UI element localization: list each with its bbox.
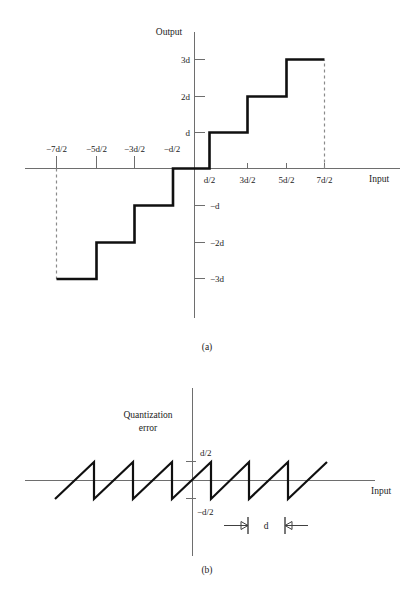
quantization-figure: Output Input 3d 2d d −d −2d −3d d/2 3d/2… [0, 0, 411, 591]
panel-a-x-label-neg-5half-d: −5d/2 [86, 144, 107, 154]
panel-a-caption: (a) [202, 342, 213, 353]
panel-a-x-label-neg-3half-d: −3d/2 [124, 144, 145, 154]
panel-a-group: Output Input 3d 2d d −d −2d −3d d/2 3d/2… [25, 27, 400, 318]
panel-a-y-label-2d: 2d [181, 92, 191, 102]
panel-b-label-period-d: d [264, 521, 269, 531]
panel-b-x-axis-title: Input [371, 486, 391, 496]
panel-b-group: d/2 −d/2 d Quantization error Input [25, 388, 391, 556]
panel-b-label-half-d: d/2 [200, 448, 212, 458]
panel-a-x-axis-title: Input [369, 174, 389, 184]
panel-a-y-label-d: d [186, 128, 191, 138]
panel-a-y-label-neg-2d: −2d [210, 238, 225, 248]
panel-a-y-label-neg-3d: −3d [210, 274, 225, 284]
panel-a-x-label-5half-d: 5d/2 [278, 175, 294, 185]
panel-a-x-label-half-d: d/2 [204, 175, 216, 185]
panel-b-caption: (b) [201, 565, 212, 576]
panel-a-x-label-neg-7half-d: −7d/2 [46, 144, 67, 154]
panel-a-x-label-7half-d: 7d/2 [316, 175, 332, 185]
panel-a-y-axis-title: Output [156, 27, 183, 37]
panel-a-x-label-3half-d: 3d/2 [239, 175, 255, 185]
panel-b-y-axis-title-line2: error [139, 423, 158, 433]
panel-b-y-axis-title-line1: Quantization [123, 410, 172, 420]
panel-a-y-label-neg-d: −d [210, 201, 220, 211]
panel-b-label-neg-half-d: −d/2 [197, 507, 214, 517]
panel-a-y-label-3d: 3d [181, 55, 191, 65]
figure-canvas: Output Input 3d 2d d −d −2d −3d d/2 3d/2… [0, 0, 411, 591]
panel-a-staircase [57, 60, 325, 280]
panel-a-x-label-neg-half-d: −d/2 [164, 144, 181, 154]
